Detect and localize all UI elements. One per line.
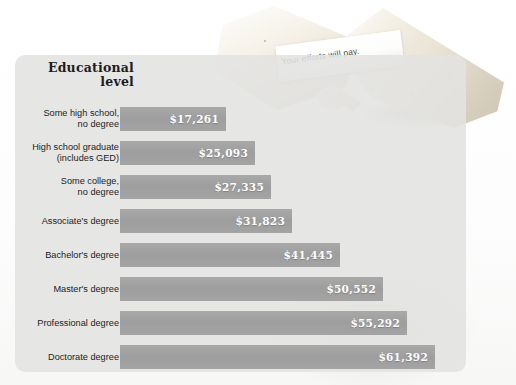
chart-title-line2: level (100, 74, 134, 89)
bar-row: Some college,no degree$27,335 (15, 175, 466, 199)
bar-category-label: Master's degree (7, 284, 119, 295)
bar-category-label: Some high school,no degree (7, 108, 119, 130)
bar-value-label: $41,445 (283, 249, 333, 261)
chart-screenshot: Your efforts will pay. Educational level… (0, 0, 516, 385)
bar: $61,392 (120, 345, 435, 369)
bar: $41,445 (120, 243, 340, 267)
bar-row: High school graduate(includes GED)$25,09… (15, 141, 466, 165)
bar-category-label: Doctorate degree (7, 352, 119, 363)
bar-category-label: Some college,no degree (7, 176, 119, 198)
bar: $27,335 (120, 175, 271, 199)
bar-category-label: Associate's degree (7, 216, 119, 227)
bar-value-label: $55,292 (350, 317, 400, 329)
bar-row: Some high school,no degree$17,261 (15, 107, 466, 131)
bar: $31,823 (120, 209, 292, 233)
bar-value-label: $17,261 (169, 113, 219, 125)
bar-value-label: $61,392 (378, 351, 428, 363)
bar-value-label: $25,093 (198, 147, 248, 159)
bar-category-label: Professional degree (7, 318, 119, 329)
bar-value-label: $50,552 (326, 283, 376, 295)
bar-value-label: $31,823 (235, 215, 285, 227)
chart-title-line1: Educational (48, 60, 134, 75)
bar-category-label: High school graduate(includes GED) (7, 142, 119, 164)
bar-row: Professional degree$55,292 (15, 311, 466, 335)
bar-category-label: Bachelor's degree (7, 250, 119, 261)
bar-row: Doctorate degree$61,392 (15, 345, 466, 369)
bar-row: Associate's degree$31,823 (15, 209, 466, 233)
bar-row: Bachelor's degree$41,445 (15, 243, 466, 267)
chart-content: Educational level Some high school,no de… (15, 55, 466, 372)
bar: $50,552 (120, 277, 383, 301)
bar: $25,093 (120, 141, 255, 165)
bar: $17,261 (120, 107, 226, 131)
bar-row: Master's degree$50,552 (15, 277, 466, 301)
bar: $55,292 (120, 311, 407, 335)
bar-value-label: $27,335 (214, 181, 264, 193)
chart-title: Educational level (33, 61, 134, 89)
